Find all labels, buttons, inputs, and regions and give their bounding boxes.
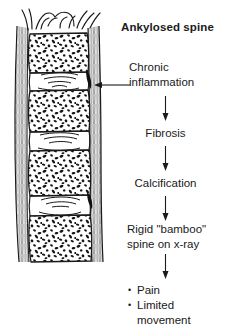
flow-outcome-line-1: Rigid "bamboo" — [127, 222, 227, 237]
vertebral-body — [29, 150, 91, 196]
vertebral-body — [29, 33, 89, 73]
ankylosed-spine-illustration — [8, 4, 112, 270]
flow-step-fibrosis: Fibrosis — [113, 126, 218, 141]
flow-arrow-to-fibrosis — [158, 96, 173, 122]
flow-arrow-to-bamboo-spine — [158, 196, 173, 222]
bullet-icon: • — [128, 298, 137, 313]
flow-outcome-bamboo-spine: Rigid "bamboo" spine on x-ray — [127, 222, 227, 251]
figure-title: Ankylosed spine — [121, 21, 214, 33]
flow-arrow-to-calcification — [158, 146, 173, 172]
vertebral-body — [29, 215, 92, 262]
syndesmophyte-squiggles — [22, 9, 100, 30]
bullet-icon: • — [128, 283, 137, 298]
intervertebral-disc — [29, 72, 89, 91]
callout-chronic-inflammation: Chronic inflammation — [129, 60, 194, 89]
flow-step-calcification: Calcification — [113, 176, 218, 191]
callout-label-line-2: inflammation — [129, 75, 194, 90]
list-item: • Pain — [128, 283, 191, 298]
symptom-label: Limited movement — [137, 298, 191, 328]
symptom-label: Pain — [137, 283, 160, 298]
intervertebral-disc — [29, 131, 90, 151]
figure-canvas: Ankylosed spine Chronic inflammation Fib… — [0, 0, 229, 336]
callout-label-line-1: Chronic — [129, 60, 194, 75]
symptom-list: • Pain • Limited movement — [128, 283, 191, 328]
vertebral-body — [29, 90, 90, 132]
callout-leader-line — [92, 78, 130, 92]
intervertebral-disc — [29, 195, 91, 216]
flow-arrow-to-symptoms — [158, 254, 173, 280]
flow-outcome-line-2: spine on x-ray — [127, 237, 227, 252]
list-item: • Limited movement — [128, 298, 191, 328]
